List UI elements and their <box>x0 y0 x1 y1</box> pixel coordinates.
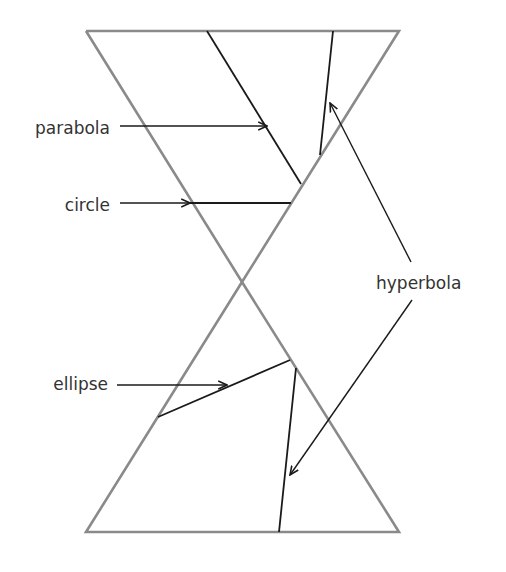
hyperbola-upper-arrow <box>330 103 411 262</box>
upper-cone <box>86 31 399 282</box>
section-lines <box>158 31 333 532</box>
lower-cone <box>86 282 399 532</box>
pointer-arrows <box>117 103 412 475</box>
circle-label: circle <box>65 195 110 215</box>
ellipse-line <box>158 360 290 417</box>
hyperbola-upper-line <box>320 31 333 155</box>
labels: parabola circle hyperbola ellipse <box>35 118 461 394</box>
parabola-line <box>207 31 301 184</box>
parabola-label: parabola <box>35 118 110 138</box>
hyperbola-label: hyperbola <box>376 273 461 293</box>
conic-sections-diagram: parabola circle hyperbola ellipse <box>0 0 506 572</box>
ellipse-label: ellipse <box>53 374 108 394</box>
hyperbola-lower-line <box>279 368 296 532</box>
double-cone <box>86 31 399 532</box>
